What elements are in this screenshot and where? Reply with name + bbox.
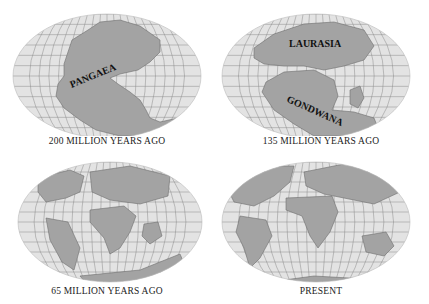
panel-65-mya: 65 MILLION YEARS AGO [0, 152, 214, 304]
map-200-mya: PANGAEA [0, 0, 214, 136]
map-135-mya: LAURASIA GONDWANA [214, 0, 428, 136]
panel-present: PRESENT [214, 152, 428, 304]
caption-65-mya: 65 MILLION YEARS AGO [0, 286, 214, 296]
caption-present: PRESENT [214, 286, 428, 296]
laurasia-label: LAURASIA [289, 38, 342, 49]
caption-135-mya: 135 MILLION YEARS AGO [214, 136, 428, 146]
map-present [214, 152, 428, 288]
panel-200-mya: PANGAEA 200 MILLION YEARS AGO [0, 0, 214, 152]
panel-135-mya: LAURASIA GONDWANA 135 MILLION YEARS AGO [214, 0, 428, 152]
map-65-mya [0, 152, 214, 288]
caption-200-mya: 200 MILLION YEARS AGO [0, 136, 214, 146]
